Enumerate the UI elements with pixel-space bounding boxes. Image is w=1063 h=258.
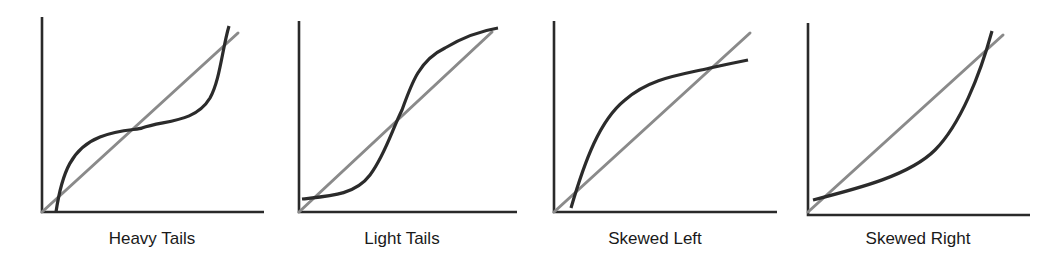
reference-line-skewed-right xyxy=(808,35,1003,212)
label-skewed-left: Skewed Left xyxy=(608,229,702,249)
panel-skewed-left xyxy=(554,21,777,212)
figure-canvas xyxy=(0,0,1063,258)
label-skewed-right: Skewed Right xyxy=(866,229,971,249)
reference-line-heavy-tails xyxy=(42,33,238,212)
axes-skewed-right xyxy=(808,23,1030,215)
data-curve-skewed-right xyxy=(813,31,992,200)
reference-line-skewed-left xyxy=(554,33,750,212)
label-light-tails: Light Tails xyxy=(364,229,439,249)
label-heavy-tails: Heavy Tails xyxy=(109,229,196,249)
panel-skewed-right xyxy=(808,23,1030,215)
data-curve-skewed-left xyxy=(571,60,748,208)
panel-light-tails xyxy=(299,21,517,212)
panel-heavy-tails xyxy=(42,17,264,212)
qq-plot-figure: Heavy Tails Light Tails Skewed Left Skew… xyxy=(0,0,1063,258)
